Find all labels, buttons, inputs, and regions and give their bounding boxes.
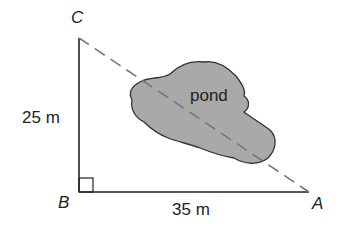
pond-label: pond [190,86,228,106]
hypotenuse-ca-dashed [79,38,309,192]
right-angle-marker [79,178,93,192]
vertex-a-label: A [312,194,323,214]
vertex-c-label: C [71,8,83,28]
side-bc-length: 25 m [22,108,60,128]
side-ba-length: 35 m [172,200,210,220]
vertex-b-label: B [58,193,69,213]
pond-shape [130,62,275,164]
